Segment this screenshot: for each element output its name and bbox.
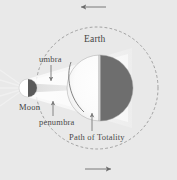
- moon-label: Moon: [19, 103, 40, 112]
- earth-label: Earth: [84, 35, 106, 45]
- eclipse-diagram: Earth umbra Moon penumbra Path of Totali…: [0, 0, 177, 180]
- penumbra-label: penumbra: [39, 118, 75, 127]
- path-of-totality-label: Path of Totality: [69, 133, 125, 142]
- diagram-canvas: [0, 0, 177, 180]
- sunlight-rays: [0, 70, 20, 106]
- umbra-label: umbra: [39, 55, 62, 64]
